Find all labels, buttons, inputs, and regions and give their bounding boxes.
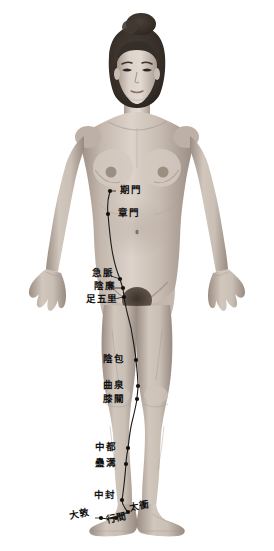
- acupoint-ququan: [136, 384, 140, 388]
- right-knee: [144, 386, 168, 404]
- acupoint-dadun: [99, 516, 103, 520]
- acupoint-label-qimen: 期門: [120, 185, 141, 195]
- acupoint-yinlian: [121, 286, 125, 290]
- acupoint-label-zhongdu: 中都: [95, 442, 116, 452]
- right-ear: [154, 68, 160, 80]
- acupoint-label-yinbao: 陰包: [103, 354, 124, 364]
- hair-bun-strand: [122, 20, 138, 34]
- acupoint-xiguan: [135, 397, 139, 401]
- left-ear: [114, 68, 120, 80]
- acupoint-label-xiguan: 膝關: [103, 394, 124, 404]
- acupoint-label-zhongfeng: 中封: [94, 490, 115, 500]
- right-areola: [158, 167, 169, 178]
- acupoint-zuwuli: [122, 295, 126, 299]
- acupoint-label-zuwuli: 足五里: [86, 294, 118, 304]
- acupoint-label-jimai: 急脈: [92, 268, 113, 278]
- acupoint-jimai: [118, 277, 122, 281]
- acupoint-zhongfeng: [120, 498, 124, 502]
- acupuncture-meridian-figure: 期門 章門 急脈 陰廉 足五里 陰包 曲泉 膝關 中都 蠱溝 中封 太衝 行間 …: [0, 0, 274, 551]
- acupoint-label-zhangmen: 章門: [118, 208, 139, 218]
- navel: [135, 230, 138, 234]
- acupoint-ligou: [124, 462, 128, 466]
- acupoint-label-ququan: 曲泉: [103, 380, 124, 390]
- left-areola: [106, 167, 117, 178]
- acupoint-zhangmen: [106, 212, 110, 216]
- acupoint-label-ligou: 蠱溝: [95, 458, 116, 468]
- acupoint-yinbao: [134, 358, 138, 362]
- body-illustration: [0, 0, 274, 551]
- acupoint-label-yinlian: 陰廉: [94, 281, 115, 291]
- acupoint-qimen: [108, 189, 112, 193]
- acupoint-zhongdu: [126, 446, 130, 450]
